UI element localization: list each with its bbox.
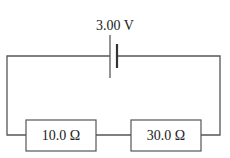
circuit-diagram: 3.00 V 10.0 Ω 30.0 Ω: [0, 0, 230, 158]
battery-symbol: [110, 35, 117, 78]
resistor-10-ohm: 10.0 Ω: [26, 120, 96, 151]
battery-label: 3.00 V: [96, 18, 134, 33]
resistor-label: 10.0 Ω: [42, 128, 80, 143]
resistor-label: 30.0 Ω: [147, 128, 185, 143]
resistor-30-ohm: 30.0 Ω: [131, 120, 201, 151]
